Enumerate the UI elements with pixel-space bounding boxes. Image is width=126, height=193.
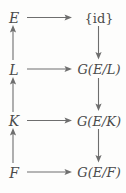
horizontal-arrow-row-3 xyxy=(27,117,72,123)
left-vertical-arrow-K-to-L xyxy=(10,77,16,112)
node-right-row-2: G(E/L) xyxy=(69,63,126,76)
right-vertical-arrow-GEL-to-GEK xyxy=(95,78,101,111)
node-right-row-1: {id} xyxy=(69,12,126,25)
horizontal-arrow-row-2 xyxy=(27,66,72,72)
node-left-row-2: L xyxy=(1,63,27,77)
node-left-row-3: K xyxy=(1,114,27,128)
node-right-row-3: G(E/K) xyxy=(69,115,126,128)
horizontal-arrow-row-1 xyxy=(27,14,72,20)
node-left-row-4: F xyxy=(1,166,27,180)
node-left-row-1: E xyxy=(1,11,27,25)
commutative-diagram: E L K F {id} G(E/L) G(E/K) G(E/F) xyxy=(0,0,126,193)
right-vertical-arrow-GEK-to-GEF xyxy=(95,129,101,163)
node-right-row-4: G(E/F) xyxy=(69,166,126,179)
right-vertical-arrow-id-to-GEL xyxy=(95,26,101,60)
left-vertical-arrow-L-to-E xyxy=(10,25,16,60)
horizontal-arrow-row-4 xyxy=(27,169,72,175)
left-vertical-arrow-F-to-K xyxy=(10,128,16,163)
